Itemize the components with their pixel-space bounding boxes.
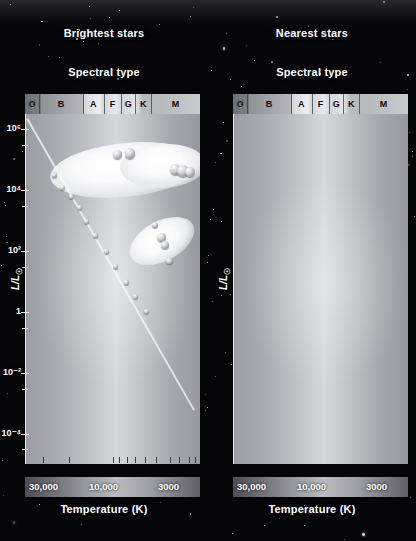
y-tick-label: 10² xyxy=(1,245,21,255)
x-tick xyxy=(113,457,114,463)
y-tick-major xyxy=(21,190,29,191)
x-tick-10000-left: 10,000 xyxy=(89,478,118,496)
spectral-class-g-left: G xyxy=(121,94,135,114)
x-tick xyxy=(135,457,136,463)
x-axis-title-left: Temperature (K) xyxy=(0,503,208,515)
spectral-divider xyxy=(329,94,330,114)
spectral-divider xyxy=(83,94,84,114)
spectral-divider xyxy=(343,94,344,114)
x-tick xyxy=(189,457,190,463)
spectral-divider xyxy=(151,94,152,114)
x-tick-3000-right: 3000 xyxy=(366,478,387,496)
y-tick-minor xyxy=(22,449,28,450)
spectral-class-b-right: B xyxy=(247,94,291,114)
y-tick-minor xyxy=(22,328,28,329)
y-tick-minor xyxy=(22,145,28,146)
x-tick xyxy=(170,457,171,463)
x-tick xyxy=(119,457,120,463)
panel-title-brightest: Brightest stars xyxy=(0,27,208,39)
spectral-class-b-left: B xyxy=(39,94,83,114)
spectral-class-m-left: M xyxy=(151,94,200,114)
x-tick xyxy=(127,457,128,463)
spectral-divider xyxy=(104,94,105,114)
panel-brightest-stars: Brightest stars Spectral type OBAFGKM 10… xyxy=(0,0,208,541)
plot-area-brightest xyxy=(25,114,200,464)
spectral-class-o-left: O xyxy=(25,94,39,114)
spectral-divider xyxy=(135,94,136,114)
spectral-type-bar-left: OBAFGKM xyxy=(25,94,200,115)
y-axis-line-right xyxy=(233,114,234,464)
y-tick-label: 10⁶ xyxy=(1,123,21,133)
y-tick-minor xyxy=(22,389,28,390)
main-sequence-star xyxy=(133,294,138,299)
y-axis-line-left xyxy=(25,114,26,464)
x-tick xyxy=(145,457,146,463)
y-tick-major xyxy=(21,434,29,435)
spectral-class-k-left: K xyxy=(135,94,151,114)
x-tick-30000-right: 30,000 xyxy=(237,478,266,496)
main-sequence-star xyxy=(93,233,98,238)
x-tick-3000-left: 3000 xyxy=(158,478,179,496)
spectral-type-title-right: Spectral type xyxy=(208,66,416,78)
main-sequence-star xyxy=(60,185,65,190)
x-tick xyxy=(43,457,44,463)
x-tick xyxy=(69,457,70,463)
y-tick-label: 1 xyxy=(1,306,21,316)
spectral-class-a-left: A xyxy=(83,94,104,114)
spectral-divider xyxy=(121,94,122,114)
spectral-class-g-right: G xyxy=(329,94,343,114)
y-tick-label: 10⁴ xyxy=(1,184,21,194)
x-axis-title-right: Temperature (K) xyxy=(208,503,416,515)
y-tick-major xyxy=(21,251,29,252)
spectral-divider xyxy=(247,94,248,114)
main-sequence-star xyxy=(52,172,57,177)
spectral-class-o-right: O xyxy=(233,94,247,114)
main-sequence-star xyxy=(104,249,109,254)
spectral-type-bar-right: OBAFGKM xyxy=(233,94,408,115)
spectral-class-k-right: K xyxy=(343,94,359,114)
plot-area-nearest xyxy=(233,114,408,464)
main-sequence-star xyxy=(77,205,82,210)
spectral-divider xyxy=(359,94,360,114)
y-tick-major xyxy=(21,129,29,130)
spectral-divider xyxy=(39,94,40,114)
main-sequence-star xyxy=(113,264,118,269)
y-axis-title-right: L/L☉ xyxy=(218,268,232,290)
main-sequence-star xyxy=(124,280,129,285)
y-tick-minor xyxy=(22,206,28,207)
panel-title-nearest: Nearest stars xyxy=(208,27,416,39)
y-tick-label: 10⁻² xyxy=(1,367,21,377)
panel-nearest-stars: Nearest stars Spectral type OBAFGKM 10⁵1… xyxy=(208,0,416,541)
giant-star xyxy=(166,258,173,265)
y-axis-title-left: L/L☉ xyxy=(10,268,24,290)
y-tick-major xyxy=(21,312,29,313)
spectral-divider xyxy=(312,94,313,114)
y-tick-major xyxy=(21,373,29,374)
main-sequence-star xyxy=(144,309,149,314)
spectral-class-a-right: A xyxy=(291,94,312,114)
supergiant-star xyxy=(125,148,136,159)
spectral-class-m-right: M xyxy=(359,94,408,114)
x-tick xyxy=(195,457,196,463)
y-tick-label: 10⁻⁴ xyxy=(1,428,21,438)
x-tick xyxy=(179,457,180,463)
x-tick-30000-left: 30,000 xyxy=(29,478,58,496)
hr-diagram-figure: Brightest stars Spectral type OBAFGKM 10… xyxy=(0,0,416,541)
spectral-divider xyxy=(291,94,292,114)
x-tick xyxy=(156,457,157,463)
spectral-class-f-left: F xyxy=(104,94,122,114)
supergiant-star xyxy=(185,167,195,177)
spectral-type-title-left: Spectral type xyxy=(0,66,208,78)
spectral-class-f-right: F xyxy=(312,94,330,114)
x-tick-10000-right: 10,000 xyxy=(297,478,326,496)
